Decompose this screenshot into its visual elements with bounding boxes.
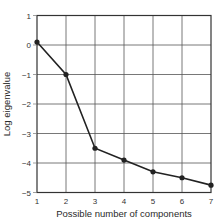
y-tick-label: −2 [22,100,32,109]
data-point [150,169,155,174]
y-tick-label: 1 [27,12,32,21]
x-tick-label: 2 [64,197,69,206]
y-tick-label: −3 [22,130,32,139]
x-tick-label: 5 [151,197,156,206]
y-tick-label: 0 [27,41,32,50]
data-point [92,146,97,151]
data-point [121,157,126,162]
x-axis-label: Possible number of components [56,208,192,219]
data-point [179,175,184,180]
y-axis-ticks: 10−1−2−3−4−5 [22,12,37,198]
y-tick-label: −5 [22,189,32,198]
scree-plot: 10−1−2−3−4−5 1234567 Log eigenvalue Poss… [0,0,220,223]
data-point [208,183,213,188]
y-tick-label: −4 [22,159,32,168]
x-tick-label: 1 [35,197,40,206]
x-tick-label: 6 [180,197,185,206]
x-tick-label: 3 [93,197,98,206]
y-tick-label: −1 [22,71,32,80]
data-point [63,72,68,77]
x-tick-label: 4 [122,197,127,206]
x-tick-label: 7 [209,197,214,206]
data-point [34,39,39,44]
x-axis-ticks: 1234567 [35,197,214,206]
y-axis-label: Log eigenvalue [1,72,12,136]
grid-lines [37,16,211,193]
